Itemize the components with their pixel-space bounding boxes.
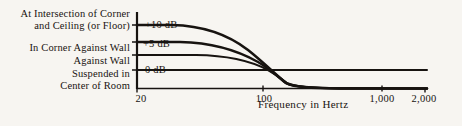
- db-annotation-plus-ten: +10 dB: [145, 19, 178, 30]
- curve-in-corner-against-wall: [137, 42, 427, 89]
- curve-against-wall: [137, 55, 427, 89]
- placement-label-in-corner-against-wall: In Corner Against Wall: [2, 42, 130, 54]
- db-annotation-plus-five: +5 dB: [143, 38, 170, 49]
- placement-label-against-wall: Against Wall: [2, 55, 130, 67]
- x-tick-label-20: 20: [130, 93, 152, 104]
- x-axis-title: Frequency in Hertz: [258, 98, 348, 110]
- placement-label-suspended-center-of-room: Suspended in Center of Room: [2, 68, 130, 91]
- placement-label-corner-ceiling: At Intersection of Corner and Ceiling (o…: [2, 8, 130, 31]
- x-tick-label-2000: 2,000: [404, 93, 444, 104]
- db-annotation-zero: 0 dB: [145, 64, 166, 75]
- figure-root: At Intersection of Corner and Ceiling (o…: [0, 0, 462, 126]
- x-tick-label-1000: 1,000: [363, 93, 401, 104]
